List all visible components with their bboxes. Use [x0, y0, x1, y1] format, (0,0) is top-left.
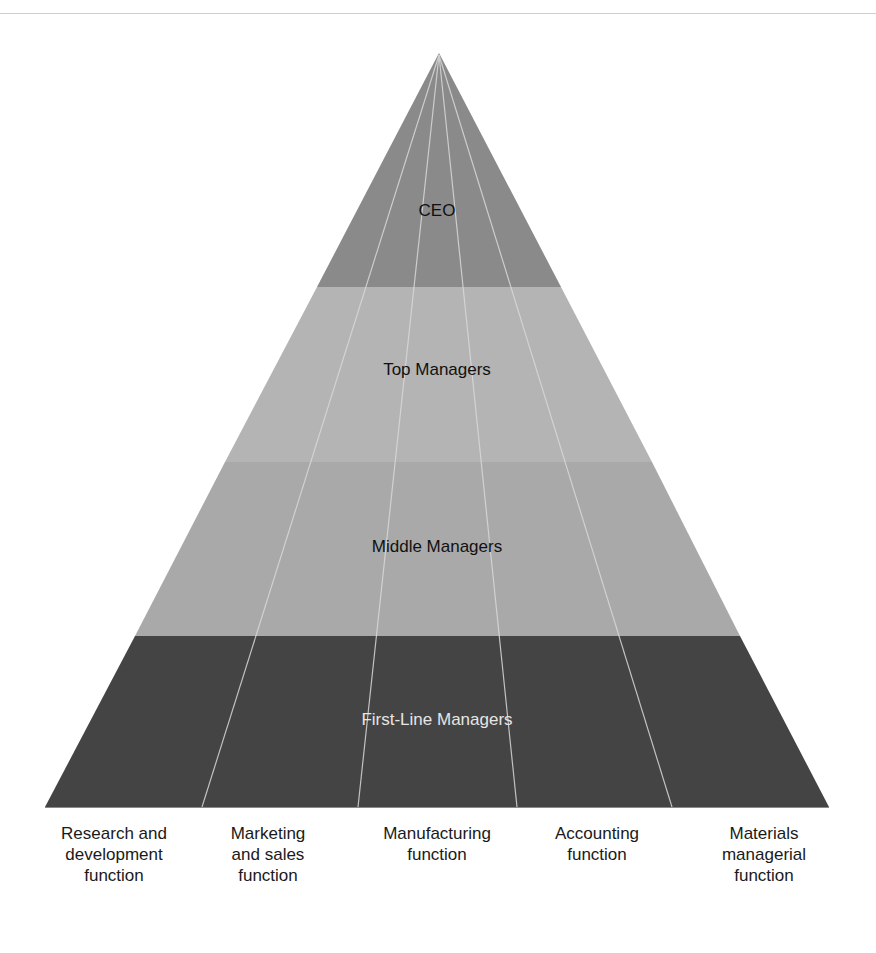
level-band-ceo — [317, 53, 561, 287]
level-label-top-managers: Top Managers — [383, 360, 491, 380]
level-label-ceo: CEO — [419, 201, 456, 221]
function-label-research-development: Research and development function — [61, 823, 167, 886]
level-label-first-line-managers: First-Line Managers — [361, 710, 512, 730]
organization-pyramid — [0, 0, 876, 953]
level-label-middle-managers: Middle Managers — [372, 537, 502, 557]
function-label-manufacturing: Manufacturing function — [383, 823, 491, 865]
function-label-materials-managerial: Materials managerial function — [722, 823, 806, 886]
function-label-accounting: Accounting function — [555, 823, 639, 865]
function-label-marketing-sales: Marketing and sales function — [231, 823, 306, 886]
